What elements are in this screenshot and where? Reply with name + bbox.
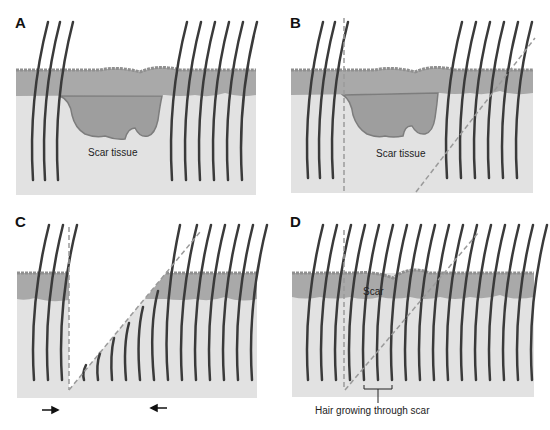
skin-cross-section-d bbox=[275, 215, 550, 430]
scar-tissue-label-a: Scar tissue bbox=[88, 147, 137, 158]
panel-b: B Scar tissue bbox=[275, 0, 550, 215]
skin-cross-section-a bbox=[0, 0, 275, 215]
panel-a: A Scar tissue bbox=[0, 0, 275, 215]
panel-c: C bbox=[0, 215, 275, 430]
hair-growing-annotation: Hair growing through scar bbox=[315, 405, 430, 416]
arrow-right-icon bbox=[42, 407, 58, 413]
scar-label-d: Scar bbox=[363, 286, 384, 297]
panel-d: D Scar Hair growing through scar bbox=[275, 215, 550, 430]
arrow-left-icon bbox=[151, 405, 167, 411]
skin-cross-section-b bbox=[275, 0, 550, 215]
scar-tissue-label-b: Scar tissue bbox=[376, 148, 425, 159]
skin-cross-section-c bbox=[0, 215, 275, 430]
